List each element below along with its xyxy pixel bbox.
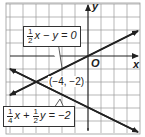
equation-label-1: 12x − y = 0: [23, 26, 81, 47]
equation-label-2: 14x + 12y = −2: [3, 106, 75, 127]
fraction: 12: [27, 28, 33, 45]
fraction: 14: [7, 108, 13, 125]
origin-label: O: [91, 57, 100, 69]
y-axis-label: y: [92, 0, 98, 12]
intersection-label: (−4, −2): [48, 76, 85, 87]
fraction: 12: [33, 108, 39, 125]
x-axis-label: x: [133, 58, 139, 70]
